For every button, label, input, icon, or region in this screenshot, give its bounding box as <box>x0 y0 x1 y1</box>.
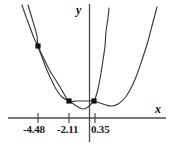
marker-point-c <box>91 98 96 103</box>
intersection-markers <box>35 43 96 103</box>
y-axis-label: y <box>76 3 81 18</box>
graph-figure: y x -4.48 -2.11 0.35 <box>0 0 171 146</box>
x-tick-label-2: -2.11 <box>57 123 78 135</box>
marker-point-b <box>66 98 71 103</box>
x-tick-label-3: 0.35 <box>91 123 109 135</box>
x-tick-label-1: -4.48 <box>23 123 45 135</box>
marker-point-a <box>35 43 40 48</box>
x-axis-label: x <box>155 102 161 117</box>
curve-narrow-parabola <box>28 5 109 109</box>
